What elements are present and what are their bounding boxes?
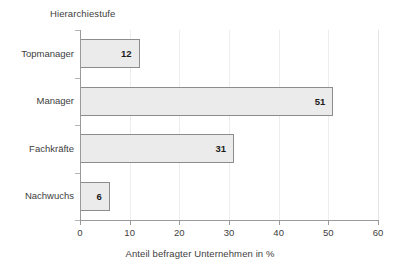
- x-axis-tick: [229, 221, 230, 225]
- x-axis-tick: [328, 221, 329, 225]
- x-axis-tick: [279, 221, 280, 225]
- category-label: Manager: [37, 96, 75, 106]
- bar[interactable]: 12: [80, 39, 140, 68]
- x-axis-tick-label: 40: [264, 228, 294, 238]
- bar[interactable]: 31: [80, 134, 234, 163]
- category-label: Fachkräfte: [29, 144, 74, 154]
- bar-row: 31: [80, 134, 378, 163]
- bar-value-label: 12: [121, 49, 139, 59]
- bar-value-label: 6: [97, 192, 109, 202]
- y-axis-tick: [75, 78, 80, 79]
- x-axis-tick-label: 20: [164, 228, 194, 238]
- chart-title: Hierarchiestufe: [50, 8, 115, 19]
- x-axis-tick-label: 60: [363, 228, 393, 238]
- x-axis-tick-label: 30: [214, 228, 244, 238]
- bar[interactable]: 6: [80, 182, 110, 211]
- x-axis-tick-label: 0: [65, 228, 95, 238]
- x-axis-tick-label: 50: [313, 228, 343, 238]
- plot-area: 1251316: [80, 30, 378, 220]
- bar-row: 6: [80, 182, 378, 211]
- x-axis-tick: [378, 221, 379, 225]
- bar-chart: Hierarchiestufe 1251316 Anteil befragter…: [0, 0, 400, 272]
- category-label: Topmanager: [21, 49, 74, 59]
- x-axis-tick: [179, 221, 180, 225]
- bar-row: 12: [80, 39, 378, 68]
- bar-value-label: 31: [215, 144, 233, 154]
- bar-value-label: 51: [315, 97, 333, 107]
- bar-row: 51: [80, 87, 378, 116]
- y-axis-tick: [75, 125, 80, 126]
- x-axis-tick: [80, 221, 81, 225]
- y-axis-line: [80, 30, 81, 221]
- y-axis-tick: [75, 220, 80, 221]
- y-axis-tick: [75, 173, 80, 174]
- bar[interactable]: 51: [80, 87, 333, 116]
- category-label: Nachwuchs: [25, 191, 74, 201]
- x-axis-title: Anteil befragter Unternehmen in %: [0, 248, 400, 259]
- gridline: [378, 30, 379, 220]
- y-axis-tick: [75, 30, 80, 31]
- x-axis-tick-label: 10: [115, 228, 145, 238]
- x-axis-tick: [130, 221, 131, 225]
